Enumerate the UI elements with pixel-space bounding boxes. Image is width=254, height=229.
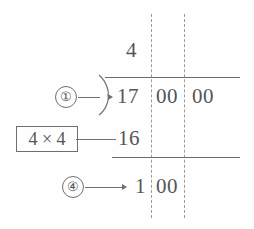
subtraction-line xyxy=(112,157,240,158)
step-marker-4: ④ xyxy=(62,176,84,198)
leader-line-multiplication xyxy=(76,139,116,140)
step-marker-1: ① xyxy=(55,86,77,108)
remainder-value: 1 xyxy=(135,176,146,197)
dividend-group-1: 17 xyxy=(117,86,139,107)
digit-group-separator-1 xyxy=(151,14,152,218)
subtrahend-value: 16 xyxy=(118,128,140,149)
digit-group-separator-2 xyxy=(184,14,185,218)
multiplication-label-box: 4 × 4 xyxy=(16,126,78,152)
arrow-right-icon-step-4 xyxy=(122,184,127,190)
arrow-right-icon-step-1 xyxy=(108,94,113,100)
quotient-digit: 4 xyxy=(126,40,137,61)
leader-line-step-1 xyxy=(78,97,100,98)
remainder-bring-down: 00 xyxy=(156,176,178,197)
leader-line-step-4 xyxy=(85,187,123,188)
division-diagram: 4 17 00 00 ① 4 × 4 16 ④ 1 00 xyxy=(0,0,254,229)
dividend-group-3: 00 xyxy=(192,86,214,107)
dividend-group-2: 00 xyxy=(156,86,178,107)
vinculum-line xyxy=(105,77,240,78)
